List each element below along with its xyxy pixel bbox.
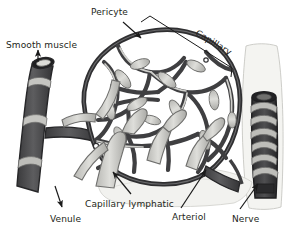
label-smooth-muscle: Smooth muscle bbox=[6, 41, 77, 50]
microcirculation-diagram: Pericyte Smooth muscle Capillary Venule … bbox=[0, 0, 292, 235]
venule-arrow bbox=[55, 186, 62, 207]
label-pericyte: Pericyte bbox=[91, 8, 128, 17]
nerve-bundle bbox=[251, 92, 278, 198]
label-nerve: Nerve bbox=[232, 215, 259, 224]
label-capillary-lymphatic: Capillary lymphatic bbox=[85, 200, 174, 209]
label-venule: Venule bbox=[50, 215, 81, 224]
label-arteriol: Arteriol bbox=[172, 213, 206, 222]
